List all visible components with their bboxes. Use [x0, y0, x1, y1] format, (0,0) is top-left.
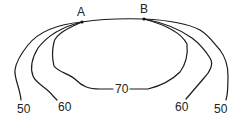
contour-svg: A B 50 60 70 60 50 [0, 0, 238, 120]
point-a-label: A [77, 5, 85, 19]
contour-diagram: A B 50 60 70 60 50 [0, 0, 238, 120]
point-b-label: B [140, 2, 148, 16]
point-b-marker [142, 17, 145, 20]
top-arc-a-b [82, 19, 144, 22]
contour-label-70: 70 [115, 82, 129, 96]
contour-label-left-60: 60 [58, 100, 72, 114]
contour-label-left-50: 50 [17, 102, 31, 116]
contour-left-50 [15, 22, 82, 100]
contour-loop-70-left [53, 22, 114, 89]
point-a-marker [80, 20, 83, 23]
contour-label-right-50: 50 [214, 102, 228, 116]
contour-label-right-60: 60 [175, 100, 189, 114]
contour-left-60 [32, 22, 82, 100]
